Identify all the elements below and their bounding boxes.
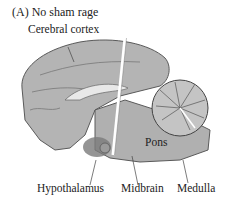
label-cerebral-cortex: Cerebral cortex <box>28 24 99 36</box>
label-medulla: Medulla <box>177 183 215 195</box>
label-midbrain: Midbrain <box>121 183 164 195</box>
panel-title: (A) No sham rage <box>12 6 98 18</box>
label-hypothalamus: Hypothalamus <box>37 183 104 195</box>
label-pons: Pons <box>145 137 167 149</box>
